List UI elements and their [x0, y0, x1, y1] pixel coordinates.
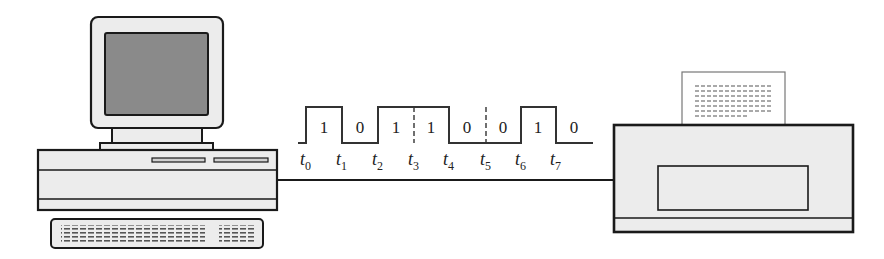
printer-illustration — [614, 72, 853, 232]
drive-slot-2 — [214, 158, 268, 162]
bit-6: 1 — [534, 118, 543, 137]
time-label-t3: t3 — [408, 149, 419, 173]
time-label-t5: t5 — [480, 149, 491, 173]
time-label-t2: t2 — [372, 149, 383, 173]
time-label-t1: t1 — [336, 149, 347, 173]
bit-0: 1 — [320, 118, 329, 137]
bit-1: 0 — [356, 118, 365, 137]
bit-5: 0 — [499, 118, 508, 137]
time-label-t6: t6 — [515, 149, 526, 173]
time-label-t7: t7 — [550, 149, 561, 173]
bit-2: 1 — [392, 118, 401, 137]
monitor-screen — [105, 33, 208, 115]
computer-illustration — [38, 17, 277, 248]
serial-transmission-diagram: 1 0 1 1 0 0 1 0 t0 t1 t2 t3 t4 t5 t6 t7 — [0, 0, 884, 259]
bit-4: 0 — [463, 118, 472, 137]
printed-paper — [682, 72, 785, 126]
monitor-stand — [112, 128, 202, 143]
time-label-t0: t0 — [300, 149, 311, 173]
printer-panel — [658, 166, 808, 210]
signal-waveform: 1 0 1 1 0 0 1 0 t0 t1 t2 t3 t4 t5 t6 t7 — [298, 107, 593, 173]
drive-slot-1 — [152, 158, 205, 162]
bit-3: 1 — [427, 118, 436, 137]
bit-7: 0 — [570, 118, 579, 137]
time-label-t4: t4 — [443, 149, 454, 173]
